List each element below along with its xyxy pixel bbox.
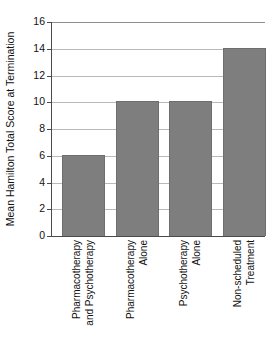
- x-axis-label-text: Non-scheduledTreatment: [232, 240, 257, 335]
- bar: [116, 101, 159, 236]
- y-tick-label: 0: [25, 229, 45, 242]
- y-tick-label: 16: [25, 15, 45, 28]
- plot-area: 0246810121416: [51, 22, 265, 236]
- bar: [169, 101, 212, 236]
- y-tick-label: 6: [25, 149, 45, 162]
- y-axis-line: [51, 22, 52, 237]
- y-tick-label: 8: [25, 122, 45, 135]
- x-axis-label-line: Pharmacotherapy: [125, 240, 138, 335]
- chart-title-remnant: [0, 0, 277, 2]
- x-axis-label-text: PsychotherapyAlone: [178, 240, 203, 335]
- y-tick-label: 2: [25, 202, 45, 215]
- bar-chart-figure: Mean Hamilton Total Score at Termination…: [0, 0, 277, 337]
- y-axis-title: Mean Hamilton Total Score at Termination: [3, 22, 17, 236]
- x-axis-label-line: Alone: [137, 240, 150, 335]
- x-axis-label-line: and Psychotherapy: [83, 240, 96, 335]
- y-tick-label: 12: [25, 69, 45, 82]
- bar: [223, 48, 266, 236]
- x-axis-label-line: Pharmacotherapy: [71, 240, 84, 335]
- y-tick-label: 4: [25, 176, 45, 189]
- x-axis-labels-group: Pharmacotherapyand PsychotherapyPharmaco…: [51, 240, 265, 337]
- gridline: [51, 22, 265, 23]
- x-axis-line: [51, 236, 265, 237]
- x-axis-label-line: Treatment: [244, 240, 257, 335]
- bar: [62, 155, 105, 236]
- x-axis-label-text: Pharmacotherapyand Psychotherapy: [71, 240, 96, 335]
- x-axis-label-text: PharmacotherapyAlone: [125, 240, 150, 335]
- x-axis-label-line: Alone: [190, 240, 203, 335]
- x-axis-label-line: Non-scheduled: [232, 240, 245, 335]
- x-axis-label-line: Psychotherapy: [178, 240, 191, 335]
- y-tick-label: 14: [25, 42, 45, 55]
- y-tick-label: 10: [25, 95, 45, 108]
